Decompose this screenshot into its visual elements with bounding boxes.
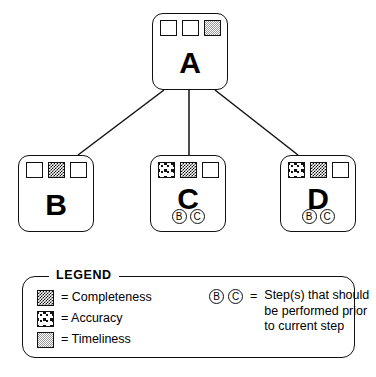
node-a-indicator-row bbox=[153, 20, 227, 36]
node-c-prerequisite-b: B bbox=[172, 209, 187, 224]
legend-prerequisite-symbol-c: C bbox=[228, 289, 243, 304]
edge-a-to-b bbox=[78, 90, 164, 155]
process-node-b[interactable]: B bbox=[18, 155, 94, 232]
process-node-d[interactable]: D B C bbox=[280, 155, 356, 232]
legend-prerequisite-line-1: Step(s) that should bbox=[264, 288, 369, 304]
legend-prerequisite-line-2: be performed prior bbox=[264, 304, 369, 320]
node-a-swatch-1-empty bbox=[160, 20, 177, 36]
legend-label-accuracy: = Accuracy bbox=[61, 309, 123, 328]
process-node-c[interactable]: C B C bbox=[150, 155, 226, 232]
legend-item-completeness: = Completeness bbox=[37, 288, 152, 309]
node-c-swatch-1-accuracy bbox=[158, 162, 175, 178]
legend-label-completeness: = Completeness bbox=[61, 288, 152, 307]
legend-prerequisite-line-3: to current step bbox=[264, 319, 369, 335]
node-d-prerequisite-row: B C bbox=[281, 209, 355, 224]
legend-item-timeliness: = Timeliness bbox=[37, 330, 152, 351]
legend-prerequisite-symbols: B C bbox=[209, 289, 243, 304]
node-c-swatch-2-completeness bbox=[180, 162, 197, 178]
node-d-prerequisite-c: C bbox=[320, 209, 335, 224]
node-d-prerequisite-b: B bbox=[302, 209, 317, 224]
legend-title: LEGEND bbox=[49, 268, 119, 282]
node-b-swatch-1-empty bbox=[26, 162, 43, 178]
node-b-swatch-2-completeness bbox=[48, 162, 65, 178]
node-d-indicator-row bbox=[281, 162, 355, 178]
legend-prerequisite-equals: = bbox=[250, 288, 257, 305]
node-a-swatch-2-empty bbox=[182, 20, 199, 36]
edge-a-to-d bbox=[215, 90, 298, 155]
legend-label-timeliness: = Timeliness bbox=[61, 330, 131, 349]
node-c-prerequisite-row: B C bbox=[151, 209, 225, 224]
legend-prerequisite-column: B C = Step(s) that should be performed p… bbox=[209, 288, 369, 335]
node-c-prerequisite-c: C bbox=[190, 209, 205, 224]
legend-swatch-accuracy bbox=[37, 311, 54, 327]
legend-item-prerequisite: B C = Step(s) that should be performed p… bbox=[209, 288, 369, 335]
node-d-swatch-1-accuracy bbox=[288, 162, 305, 178]
legend-prerequisite-symbol-b: B bbox=[209, 289, 224, 304]
legend-pattern-column: = Completeness = Accuracy = Timeliness bbox=[37, 288, 152, 351]
node-b-indicator-row bbox=[19, 162, 93, 178]
node-d-swatch-2-completeness bbox=[310, 162, 327, 178]
legend-prerequisite-description: Step(s) that should be performed prior t… bbox=[264, 288, 369, 335]
process-node-a[interactable]: A bbox=[152, 13, 228, 90]
node-c-indicator-row bbox=[151, 162, 225, 178]
node-b-swatch-3-empty bbox=[70, 162, 87, 178]
legend-item-accuracy: = Accuracy bbox=[37, 309, 152, 330]
node-d-swatch-3-empty bbox=[332, 162, 349, 178]
node-c-swatch-3-empty bbox=[202, 162, 219, 178]
legend-panel: LEGEND = Completeness = Accuracy = Timel… bbox=[22, 276, 355, 358]
legend-swatch-completeness bbox=[37, 290, 54, 306]
node-b-label: B bbox=[19, 190, 93, 220]
legend-swatch-timeliness bbox=[37, 332, 54, 348]
node-a-swatch-3-timeliness bbox=[204, 20, 221, 36]
diagram-canvas: A B C B C D B C bbox=[0, 0, 376, 377]
node-a-label: A bbox=[153, 48, 227, 78]
